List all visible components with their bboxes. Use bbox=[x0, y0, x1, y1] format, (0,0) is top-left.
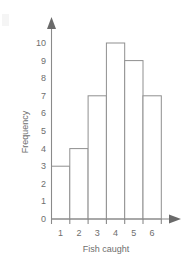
y-tick-label: 1 bbox=[41, 196, 46, 206]
bar-category-1 bbox=[52, 166, 70, 219]
y-tick-label: 4 bbox=[41, 144, 46, 154]
x-tick-label: 6 bbox=[150, 228, 155, 238]
bar-category-5 bbox=[125, 61, 143, 219]
x-tick-label: 1 bbox=[58, 228, 63, 238]
x-tick-label: 4 bbox=[113, 228, 118, 238]
y-axis-tick-labels: 0 1 2 3 4 5 6 7 8 9 10 bbox=[36, 38, 46, 224]
bar-category-4 bbox=[106, 43, 124, 219]
chart-canvas: 0 1 2 3 4 5 6 7 8 9 10 1 2 3 4 5 6 bbox=[0, 0, 189, 260]
y-tick-label: 5 bbox=[41, 126, 46, 136]
x-axis-arrow-icon bbox=[169, 215, 181, 224]
bar-category-2 bbox=[70, 149, 88, 219]
bars-group bbox=[52, 43, 162, 219]
x-tick-label: 3 bbox=[95, 228, 100, 238]
x-axis-tick-labels: 1 2 3 4 5 6 bbox=[58, 228, 155, 238]
bar-category-6 bbox=[143, 96, 161, 219]
x-axis-ticks bbox=[52, 219, 162, 224]
y-tick-label: 10 bbox=[36, 38, 46, 48]
y-tick-label: 9 bbox=[41, 56, 46, 66]
y-tick-label: 6 bbox=[41, 108, 46, 118]
x-axis-title: Fish caught bbox=[83, 244, 130, 254]
y-tick-label: 0 bbox=[41, 214, 46, 224]
y-axis-arrow-icon bbox=[47, 17, 56, 29]
y-tick-label: 3 bbox=[41, 161, 46, 171]
x-tick-label: 2 bbox=[76, 228, 81, 238]
y-tick-label: 8 bbox=[41, 73, 46, 83]
y-tick-label: 7 bbox=[41, 91, 46, 101]
y-tick-label: 2 bbox=[41, 179, 46, 189]
bar-category-3 bbox=[88, 96, 106, 219]
histogram-chart: 0 1 2 3 4 5 6 7 8 9 10 1 2 3 4 5 6 bbox=[0, 0, 189, 260]
chart-screenshot: 0 1 2 3 4 5 6 7 8 9 10 1 2 3 4 5 6 bbox=[0, 0, 189, 260]
y-axis-title: Frequency bbox=[20, 110, 30, 153]
x-tick-label: 5 bbox=[131, 228, 136, 238]
